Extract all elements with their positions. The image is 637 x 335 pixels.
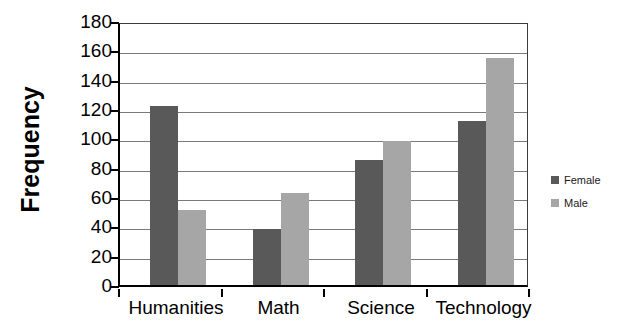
- y-tick-label: 80: [40, 158, 112, 180]
- bar-math-female: [253, 229, 281, 285]
- y-tick-label: 60: [40, 187, 112, 209]
- plot-area: [118, 23, 528, 287]
- legend-label-female: Female: [564, 174, 601, 186]
- x-tick-mark: [221, 289, 223, 297]
- x-tick-label-humanities: Humanities: [128, 297, 223, 319]
- bar-technology-female: [458, 121, 486, 285]
- bar-math-male: [281, 193, 309, 285]
- y-tick-label: 160: [40, 40, 112, 62]
- y-tick-label: 180: [40, 11, 112, 33]
- y-tick-label: 120: [40, 99, 112, 121]
- x-tick-mark: [118, 289, 120, 297]
- bar-technology-male: [486, 58, 514, 285]
- bar-humanities-male: [178, 210, 206, 285]
- y-tick-label: 20: [40, 246, 112, 268]
- bars-layer: [120, 24, 527, 285]
- chart-legend: FemaleMale: [551, 170, 601, 216]
- legend-label-male: Male: [564, 197, 588, 209]
- y-tick-label: 0: [40, 275, 112, 297]
- legend-item-female[interactable]: Female: [551, 170, 601, 190]
- x-tick-label-technology: Technology: [435, 297, 531, 319]
- bar-science-female: [355, 160, 383, 285]
- legend-item-male[interactable]: Male: [551, 193, 601, 213]
- legend-swatch-male: [551, 199, 559, 207]
- x-tick-label-math: Math: [257, 297, 299, 319]
- x-tick-mark: [426, 289, 428, 297]
- x-tick-mark: [323, 289, 325, 297]
- y-tick-label: 40: [40, 216, 112, 238]
- legend-swatch-female: [551, 176, 559, 184]
- y-tick-label: 100: [40, 128, 112, 150]
- x-tick-mark: [528, 289, 530, 297]
- bar-science-male: [383, 141, 411, 285]
- bar-chart: Frequency 020406080100120140160180 Human…: [0, 0, 637, 335]
- y-tick-label: 140: [40, 70, 112, 92]
- x-tick-label-science: Science: [347, 297, 415, 319]
- bar-humanities-female: [150, 106, 178, 285]
